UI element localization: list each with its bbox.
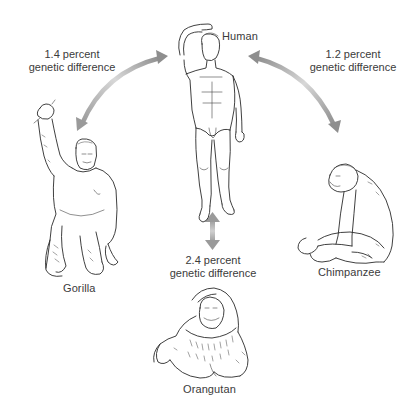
- label-chimpanzee: Chimpanzee: [318, 266, 381, 279]
- human-illustration: [179, 24, 244, 222]
- difference-orangutan-value: 2.4 percent: [166, 254, 260, 267]
- difference-chimpanzee-value: 1.2 percent: [306, 48, 400, 61]
- difference-orangutan-caption: genetic difference: [166, 267, 260, 280]
- gorilla-illustration: [34, 100, 118, 276]
- label-human: Human: [222, 30, 258, 43]
- diagram-canvas: Human Gorilla Chimpanzee Orangutan 1.4 p…: [0, 0, 417, 411]
- label-gorilla: Gorilla: [63, 282, 96, 295]
- difference-gorilla: 1.4 percent genetic difference: [25, 48, 119, 74]
- orangutan-illustration: [154, 288, 248, 378]
- chimpanzee-illustration: [298, 164, 393, 263]
- difference-orangutan: 2.4 percent genetic difference: [166, 254, 260, 280]
- difference-gorilla-caption: genetic difference: [25, 61, 119, 74]
- arrow-human-orangutan: [205, 212, 220, 250]
- difference-chimpanzee-caption: genetic difference: [306, 61, 400, 74]
- label-orangutan: Orangutan: [183, 383, 236, 396]
- difference-gorilla-value: 1.4 percent: [25, 48, 119, 61]
- difference-chimpanzee: 1.2 percent genetic difference: [306, 48, 400, 74]
